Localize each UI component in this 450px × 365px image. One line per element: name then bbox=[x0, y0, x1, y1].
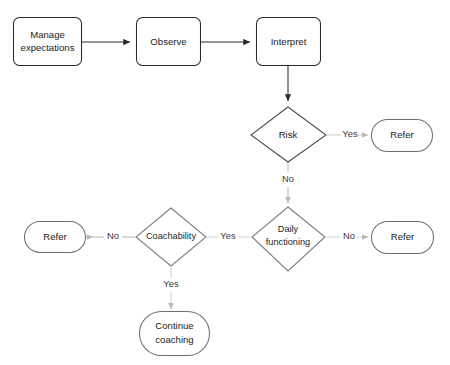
node-risk-label: Risk bbox=[279, 129, 298, 140]
node-coachability[interactable]: Coachability bbox=[136, 208, 206, 266]
node-continue-coaching-label-line1: Continue bbox=[155, 320, 193, 331]
node-daily-functioning-label-line1: Daily bbox=[278, 224, 299, 234]
edge-label-coach-no: No bbox=[107, 230, 119, 241]
node-continue-coaching[interactable]: Continue coaching bbox=[140, 312, 210, 356]
edge-label-coach-yes: Yes bbox=[163, 278, 179, 289]
node-coachability-label: Coachability bbox=[146, 231, 196, 241]
edge-label-daily-no: No bbox=[343, 230, 355, 241]
flowchart: Manage expectations Observe Interpret Ri… bbox=[0, 0, 450, 365]
node-daily-functioning-label-line2: functioning bbox=[266, 237, 310, 247]
node-refer-coach[interactable]: Refer bbox=[25, 222, 86, 253]
node-interpret-label: Interpret bbox=[271, 36, 307, 47]
node-interpret[interactable]: Interpret bbox=[257, 18, 321, 66]
node-refer-risk[interactable]: Refer bbox=[372, 120, 433, 152]
node-refer-risk-label: Refer bbox=[390, 129, 414, 140]
node-observe-label: Observe bbox=[150, 36, 186, 47]
node-manage-expectations-label-line2: expectations bbox=[21, 42, 75, 53]
node-manage-expectations-label-line1: Manage bbox=[30, 29, 65, 40]
node-refer-daily[interactable]: Refer bbox=[372, 222, 434, 254]
node-refer-daily-label: Refer bbox=[391, 231, 415, 242]
node-continue-coaching-label-line2: coaching bbox=[155, 334, 193, 345]
edge-label-risk-yes: Yes bbox=[342, 128, 358, 139]
diagram-canvas: Manage expectations Observe Interpret Ri… bbox=[0, 0, 450, 365]
edge-label-risk-no: No bbox=[282, 173, 294, 184]
edge-label-daily-yes: Yes bbox=[220, 230, 236, 241]
node-refer-coach-label: Refer bbox=[43, 231, 67, 242]
node-manage-expectations[interactable]: Manage expectations bbox=[14, 18, 82, 66]
node-observe[interactable]: Observe bbox=[137, 18, 201, 66]
node-daily-functioning[interactable]: Daily functioning bbox=[252, 207, 325, 271]
node-risk[interactable]: Risk bbox=[251, 107, 326, 162]
